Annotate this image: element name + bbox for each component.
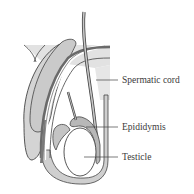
- label-epididymis: Epididymis: [122, 122, 166, 132]
- anatomy-illustration: [0, 0, 194, 194]
- anatomy-diagram: Spermatic cord Epididymis Testicle: [0, 0, 194, 194]
- label-testicle: Testicle: [122, 152, 151, 162]
- label-spermatic-cord: Spermatic cord: [122, 75, 180, 85]
